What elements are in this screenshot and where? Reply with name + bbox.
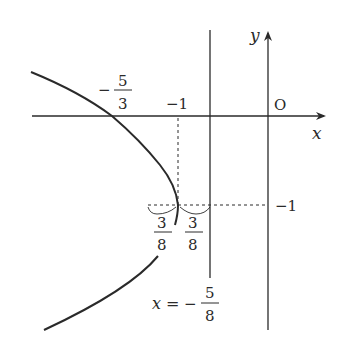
right-distance-brace: [180, 207, 210, 214]
x-axis-label: x: [312, 123, 322, 143]
directrix-denominator: 8: [205, 307, 215, 325]
x-tick-minus-one: −1: [166, 95, 188, 113]
x-intercept-denominator: 3: [118, 95, 128, 113]
right-distance-numerator: 3: [188, 214, 198, 232]
origin-label: O: [274, 96, 286, 114]
directrix-label-x: x: [152, 294, 161, 313]
left-distance-brace: [148, 207, 176, 214]
y-tick-minus-one: −1: [275, 197, 297, 215]
x-intercept-minus: −: [98, 81, 111, 99]
right-distance-denominator: 8: [188, 236, 198, 254]
x-intercept-numerator: 5: [118, 72, 128, 90]
y-axis-label: y: [249, 25, 260, 45]
directrix-label-equals: =: [166, 294, 179, 313]
left-distance-denominator: 8: [157, 236, 167, 254]
directrix-numerator: 5: [205, 284, 215, 302]
diagram-canvas: y x O − 5 3 −1 −1 3 8 3 8 x = − 5 8: [0, 0, 348, 354]
parabola-curve-lower-far: [44, 256, 158, 330]
left-distance-numerator: 3: [157, 214, 167, 232]
directrix-label-minus: −: [184, 295, 197, 313]
parabola-diagram: y x O − 5 3 −1 −1 3 8 3 8 x = − 5 8: [0, 0, 348, 354]
